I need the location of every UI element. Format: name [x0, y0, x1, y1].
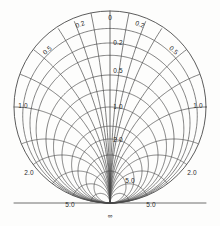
reactance-arc-neg-0-7 [21, 74, 110, 203]
label-axis-5-0: 5.0 [125, 177, 134, 184]
label-bottom-right-5-0: 5.0 [146, 201, 155, 208]
label-center-infinity: ∞ [108, 212, 113, 219]
chart-canvas [0, 0, 220, 226]
smith-chart-figure: 00.20.20.50.51.01.02.02.05.05.00.20.51.0… [0, 0, 220, 226]
label-left-2-0: 2.0 [24, 169, 33, 176]
label-right-1-0: 1.0 [193, 102, 202, 109]
label-bottom-left-5-0: 5.0 [65, 201, 74, 208]
label-top-0: 0 [108, 14, 112, 21]
label-axis-0-2: 0.2 [113, 39, 122, 46]
reactance-arc-pos-0-7 [110, 74, 199, 203]
reactance-arc-neg-1-5 [22, 139, 110, 203]
label-axis-2-0: 2.0 [113, 136, 122, 143]
smith-grid [14, 11, 206, 203]
label-axis-0-5: 0.5 [113, 67, 122, 74]
label-right-2-0: 2.0 [187, 169, 196, 176]
label-left-1-0: 1.0 [18, 102, 27, 109]
reactance-arc-pos-1-5 [110, 139, 198, 203]
label-axis-1-0: 1.0 [113, 103, 122, 110]
